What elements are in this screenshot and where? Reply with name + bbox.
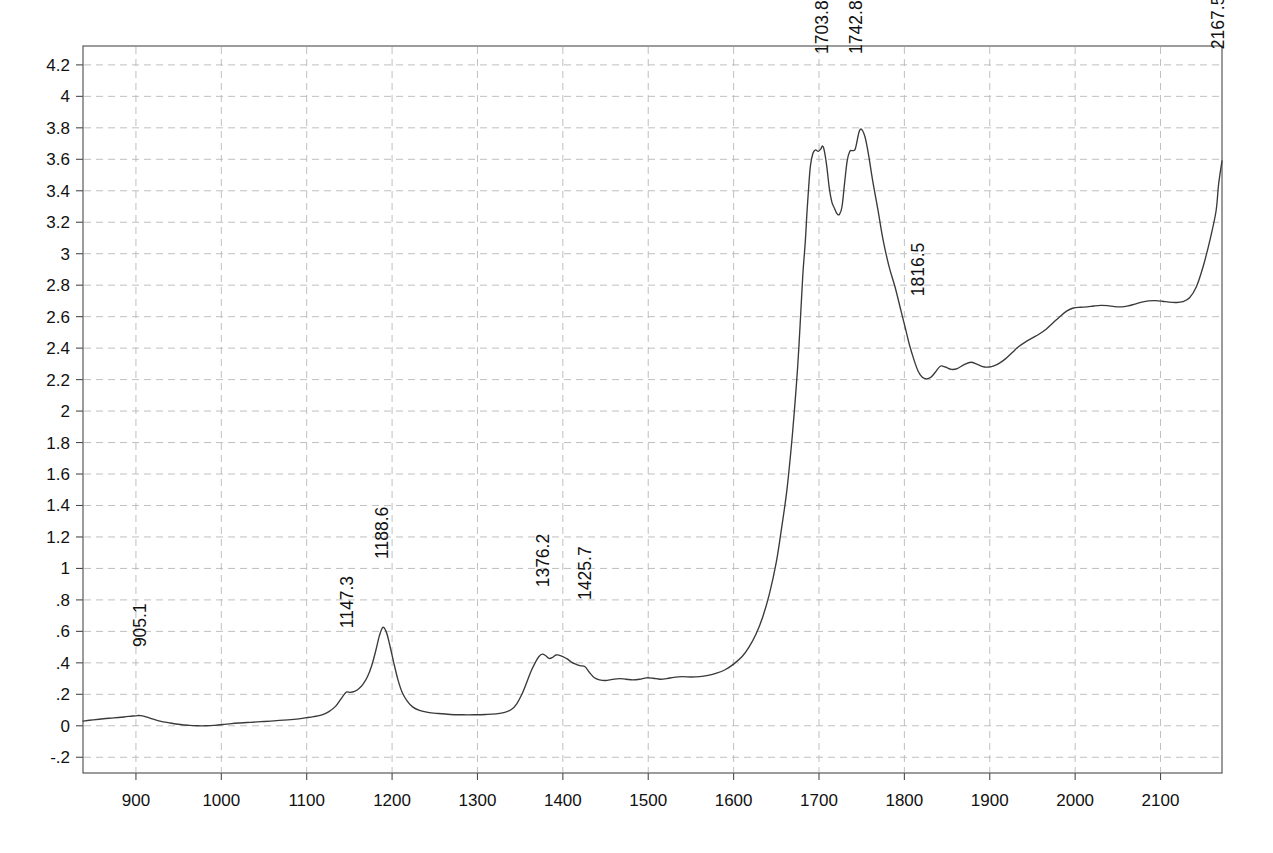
peak-label: 1816.5: [908, 243, 928, 297]
y-tick-label: 0: [61, 717, 70, 736]
y-tick-label: -.2: [50, 748, 70, 767]
y-axis-ticks: [76, 65, 83, 757]
y-tick-label: 1.6: [46, 465, 70, 484]
peak-label: 1188.6: [372, 507, 392, 559]
gridlines-layer: [84, 47, 1221, 772]
peak-label: 1376.2: [533, 534, 553, 588]
spectrum-plot: -.20.2.4.6.811.21.41.61.822.22.42.62.833…: [0, 0, 1273, 853]
y-tick-label: 2.2: [46, 371, 70, 390]
y-tick-label: 1.2: [46, 528, 70, 547]
x-tick-label: 2100: [1142, 791, 1180, 810]
peak-label: 1147.3: [337, 576, 357, 628]
y-tick-label: 4: [61, 87, 70, 106]
x-tick-label: 1000: [202, 791, 240, 810]
peak-label: 1703.8: [812, 0, 832, 54]
y-tick-label: 2.4: [46, 339, 70, 358]
x-tick-label: 1700: [800, 791, 838, 810]
x-tick-label: 1500: [629, 791, 667, 810]
y-tick-label: 3.4: [46, 182, 70, 201]
y-tick-label: 2.8: [46, 276, 70, 295]
y-tick-label: 1.4: [46, 496, 70, 515]
y-tick-label: 1.8: [46, 434, 70, 453]
y-axis-labels: -.20.2.4.6.811.21.41.61.822.22.42.62.833…: [46, 56, 70, 767]
x-tick-label: 1600: [715, 791, 753, 810]
spectrum-trace: [83, 129, 1222, 726]
x-axis-ticks: [136, 773, 1161, 780]
peak-label: 1425.7: [575, 546, 595, 600]
plot-frame: [83, 46, 1222, 773]
x-tick-label: 2000: [1056, 791, 1094, 810]
x-tick-label: 1400: [544, 791, 582, 810]
y-tick-label: 3.6: [46, 150, 70, 169]
y-tick-label: .6: [56, 622, 70, 641]
y-tick-label: 4.2: [46, 56, 70, 75]
x-tick-label: 1800: [885, 791, 923, 810]
x-tick-label: 1200: [373, 791, 411, 810]
y-tick-label: 2: [61, 402, 70, 421]
y-tick-label: .2: [56, 685, 70, 704]
x-tick-label: 1900: [971, 791, 1009, 810]
x-tick-label: 900: [122, 791, 150, 810]
y-tick-label: 1: [61, 559, 70, 578]
y-tick-label: 3: [61, 245, 70, 264]
x-axis-labels: 9001000110012001300140015001600170018001…: [122, 791, 1180, 810]
y-tick-label: .8: [56, 591, 70, 610]
y-tick-label: .4: [56, 654, 70, 673]
x-tick-label: 1300: [459, 791, 497, 810]
y-tick-label: 2.6: [46, 308, 70, 327]
peak-label: 2167.5: [1208, 0, 1228, 49]
x-tick-label: 1100: [288, 791, 325, 810]
peak-annotations: 905.11147.31188.61376.21425.71703.81742.…: [130, 0, 1228, 647]
y-tick-label: 3.2: [46, 213, 70, 232]
y-tick-label: 3.8: [46, 119, 70, 138]
spectrum-chart-root: -.20.2.4.6.811.21.41.61.822.22.42.62.833…: [0, 0, 1273, 853]
peak-label: 1742.8: [846, 0, 866, 54]
peak-label: 905.1: [130, 603, 150, 647]
